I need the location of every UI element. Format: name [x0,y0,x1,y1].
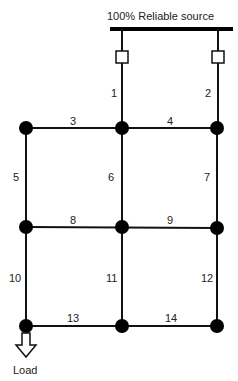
node-b [115,121,129,135]
load-label: Load [13,364,37,376]
branch-label-1: 1 [111,87,117,99]
source-title: 100% Reliable source [107,10,214,22]
network-diagram: 100% Reliable source 1 2 3 4 5 6 7 8 9 1… [0,0,238,381]
node-h [115,319,129,333]
branch-label-13: 13 [67,312,79,324]
node-i [210,319,224,333]
branch-label-11: 11 [106,272,117,284]
branch-label-8: 8 [70,214,76,226]
branch-label-6: 6 [108,171,114,183]
branch-label-5: 5 [13,171,19,183]
branch-label-2: 2 [205,87,211,99]
node-f [210,221,224,235]
node-d [19,220,33,234]
branch-label-12: 12 [201,272,213,284]
branch-label-9: 9 [167,214,173,226]
node-g [19,319,33,333]
branch-label-4: 4 [167,115,173,127]
breaker-icon [212,51,224,63]
node-c [210,121,224,135]
breaker-icon [116,51,128,63]
branch-label-7: 7 [204,171,210,183]
branch-label-3: 3 [70,115,76,127]
branch-label-14: 14 [165,312,177,324]
branch-label-10: 10 [9,272,21,284]
node-e [115,220,129,234]
node-a [19,121,33,135]
load-arrow-icon [16,333,36,357]
